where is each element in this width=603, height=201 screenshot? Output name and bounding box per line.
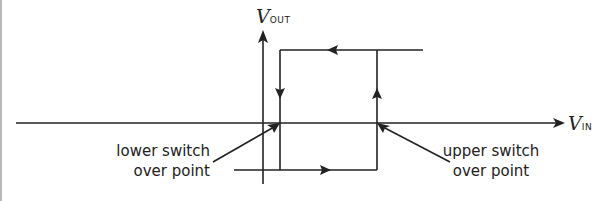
upper-switch-label-line2: over point: [436, 161, 546, 181]
x-axis-subscript: IN: [582, 122, 592, 132]
upper-pointer-arrow-icon: [377, 123, 390, 133]
lower-switch-label-line1: lower switch: [106, 141, 210, 161]
lower-pointer-line: [213, 127, 274, 162]
hysteresis-diagram: VOUT VIN lower switch over point upper s…: [0, 0, 603, 201]
lower-switch-label-line2: over point: [106, 161, 210, 181]
y-axis-symbol: V: [256, 5, 270, 27]
y-axis-subscript: OUT: [270, 15, 291, 25]
lower-switch-label: lower switch over point: [106, 141, 210, 181]
y-axis-label: VOUT: [256, 6, 290, 30]
upper-switch-label-line1: upper switch: [436, 141, 546, 161]
lower-pointer-arrow-icon: [267, 123, 280, 133]
upper-switch-label: upper switch over point: [436, 141, 546, 181]
x-axis-label: VIN: [568, 113, 592, 137]
x-axis-symbol: V: [568, 112, 582, 134]
